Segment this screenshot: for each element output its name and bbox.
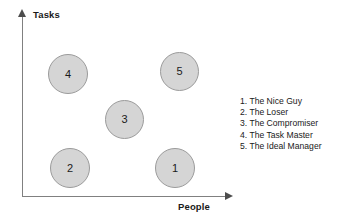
legend-item: 2. The Loser <box>240 107 322 118</box>
management-grid-diagram: Tasks People 12345 1. The Nice Guy2. The… <box>0 0 351 224</box>
y-axis-line <box>22 17 23 197</box>
y-axis-title: Tasks <box>33 9 60 20</box>
legend-item: 4. The Task Master <box>240 130 322 141</box>
legend-item: 5. The Ideal Manager <box>240 141 322 152</box>
data-point-1: 1 <box>155 148 195 188</box>
data-point-5: 5 <box>160 52 199 91</box>
x-axis-arrow-icon <box>225 192 233 200</box>
y-axis-arrow-icon <box>18 9 26 17</box>
x-axis-title: People <box>178 201 210 212</box>
legend-item: 3. The Compromiser <box>240 118 322 129</box>
x-axis-line <box>22 196 227 197</box>
data-point-4: 4 <box>48 54 88 94</box>
data-point-3: 3 <box>105 100 144 139</box>
legend-item: 1. The Nice Guy <box>240 96 322 107</box>
data-point-2: 2 <box>50 148 90 188</box>
legend: 1. The Nice Guy2. The Loser3. The Compro… <box>240 96 322 152</box>
